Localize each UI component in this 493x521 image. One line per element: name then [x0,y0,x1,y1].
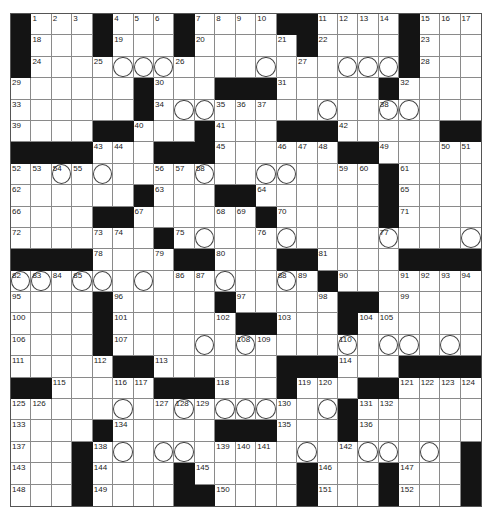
grid-cell[interactable] [215,271,235,292]
grid-cell[interactable] [195,313,215,334]
grid-cell[interactable] [358,463,378,484]
grid-cell[interactable] [236,142,256,163]
grid-cell[interactable] [318,313,338,334]
grid-cell[interactable] [358,335,378,356]
grid-cell[interactable]: 145 [195,463,215,484]
grid-cell[interactable]: 5 [134,14,154,35]
grid-cell[interactable] [297,228,317,249]
grid-cell[interactable]: 72 [11,228,31,249]
grid-cell[interactable] [154,463,174,484]
grid-cell[interactable]: 116 [113,378,133,399]
grid-cell[interactable] [52,121,72,142]
grid-cell[interactable] [195,100,215,121]
grid-cell[interactable] [420,420,440,441]
grid-cell[interactable]: 53 [31,164,51,185]
grid-cell[interactable] [72,378,92,399]
grid-cell[interactable] [31,420,51,441]
grid-cell[interactable] [440,485,460,506]
grid-cell[interactable] [174,121,194,142]
grid-cell[interactable] [52,57,72,78]
grid-cell[interactable] [236,164,256,185]
grid-cell[interactable] [420,185,440,206]
grid-cell[interactable] [379,442,399,463]
grid-cell[interactable]: 136 [358,420,378,441]
grid-cell[interactable] [338,78,358,99]
grid-cell[interactable]: 46 [277,142,297,163]
grid-cell[interactable] [31,78,51,99]
grid-cell[interactable] [399,442,419,463]
grid-cell[interactable] [31,442,51,463]
grid-cell[interactable] [461,313,481,334]
grid-cell[interactable]: 90 [338,271,358,292]
grid-cell[interactable]: 36 [236,100,256,121]
grid-cell[interactable] [195,57,215,78]
grid-cell[interactable] [420,228,440,249]
grid-cell[interactable] [113,185,133,206]
grid-cell[interactable] [277,100,297,121]
grid-cell[interactable] [256,164,276,185]
grid-cell[interactable] [440,185,460,206]
grid-cell[interactable] [113,485,133,506]
grid-cell[interactable] [72,78,92,99]
grid-cell[interactable] [256,57,276,78]
grid-cell[interactable] [72,399,92,420]
grid-cell[interactable]: 130 [277,399,297,420]
grid-cell[interactable]: 9 [236,14,256,35]
grid-cell[interactable] [72,57,92,78]
grid-cell[interactable] [420,313,440,334]
grid-cell[interactable] [358,356,378,377]
grid-cell[interactable] [461,57,481,78]
grid-cell[interactable] [338,57,358,78]
grid-cell[interactable] [113,249,133,270]
grid-cell[interactable] [195,442,215,463]
grid-cell[interactable]: 128 [174,399,194,420]
grid-cell[interactable] [461,185,481,206]
grid-cell[interactable] [134,442,154,463]
grid-cell[interactable] [379,121,399,142]
grid-cell[interactable] [236,35,256,56]
grid-cell[interactable] [420,207,440,228]
grid-cell[interactable] [338,185,358,206]
grid-cell[interactable]: 7 [195,14,215,35]
grid-cell[interactable]: 43 [93,142,113,163]
grid-cell[interactable] [236,485,256,506]
grid-cell[interactable] [399,335,419,356]
grid-cell[interactable]: 127 [154,399,174,420]
grid-cell[interactable] [215,335,235,356]
grid-cell[interactable] [195,356,215,377]
grid-cell[interactable] [358,121,378,142]
grid-cell[interactable]: 57 [174,164,194,185]
grid-cell[interactable] [31,463,51,484]
grid-cell[interactable] [358,35,378,56]
grid-cell[interactable] [174,356,194,377]
grid-cell[interactable] [399,399,419,420]
grid-cell[interactable] [338,463,358,484]
grid-cell[interactable]: 148 [11,485,31,506]
grid-cell[interactable] [256,121,276,142]
grid-cell[interactable]: 84 [52,271,72,292]
grid-cell[interactable] [338,207,358,228]
grid-cell[interactable]: 6 [154,14,174,35]
grid-cell[interactable] [93,164,113,185]
grid-cell[interactable] [113,57,133,78]
grid-cell[interactable] [297,292,317,313]
grid-cell[interactable]: 118 [215,378,235,399]
grid-cell[interactable]: 94 [461,271,481,292]
grid-cell[interactable] [31,335,51,356]
grid-cell[interactable] [399,142,419,163]
grid-cell[interactable]: 62 [11,185,31,206]
grid-cell[interactable]: 100 [11,313,31,334]
grid-cell[interactable]: 83 [31,271,51,292]
grid-cell[interactable] [154,121,174,142]
grid-cell[interactable] [297,207,317,228]
grid-cell[interactable]: 120 [318,378,338,399]
grid-cell[interactable] [174,442,194,463]
grid-cell[interactable]: 126 [31,399,51,420]
grid-cell[interactable]: 70 [277,207,297,228]
grid-cell[interactable] [318,185,338,206]
grid-cell[interactable] [195,228,215,249]
grid-cell[interactable]: 102 [215,313,235,334]
grid-cell[interactable] [399,313,419,334]
grid-cell[interactable] [195,78,215,99]
grid-cell[interactable]: 93 [440,271,460,292]
